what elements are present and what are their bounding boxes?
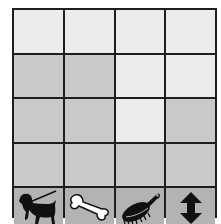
board-cell-r1-c3[interactable] [166, 55, 215, 97]
tool-dog-button[interactable] [14, 188, 63, 224]
up-down-arrow-icon [169, 190, 213, 224]
board-cell-r3-c2[interactable] [116, 144, 165, 186]
board-cell-r1-c0[interactable] [14, 55, 63, 97]
board-cell-r1-c1[interactable] [65, 55, 114, 97]
tool-brush-button[interactable] [116, 188, 165, 224]
board-cell-r1-c2[interactable] [116, 55, 165, 97]
board-cell-r3-c0[interactable] [14, 144, 63, 186]
tool-bone-button[interactable] [65, 188, 114, 224]
board-cell-r2-c0[interactable] [14, 99, 63, 142]
tool-move-button[interactable] [166, 188, 215, 224]
board-cell-r0-c3[interactable] [166, 10, 215, 53]
bone-icon [67, 190, 111, 224]
dog-icon [16, 190, 60, 224]
board-cell-r3-c3[interactable] [166, 144, 215, 186]
board-cell-r2-c3[interactable] [166, 99, 215, 142]
board-cell-r0-c0[interactable] [14, 10, 63, 53]
board-cell-r2-c2[interactable] [116, 99, 165, 142]
board-cell-r2-c1[interactable] [65, 99, 114, 142]
board-cell-r0-c2[interactable] [116, 10, 165, 53]
board-cell-r3-c1[interactable] [65, 144, 114, 186]
brush-icon [118, 190, 162, 224]
board-cell-r0-c1[interactable] [65, 10, 114, 53]
game-board [12, 8, 217, 218]
